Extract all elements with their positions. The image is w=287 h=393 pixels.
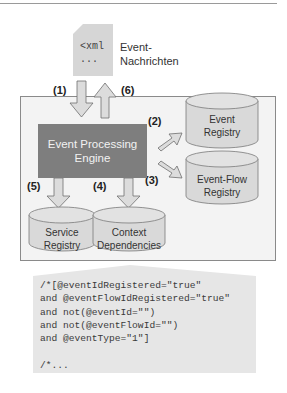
- event-registry-label-line2: Registry: [186, 127, 258, 139]
- service-registry: Service Registry: [29, 227, 95, 257]
- step-label-3: (3): [145, 174, 158, 186]
- code-line: /*...: [40, 359, 230, 372]
- step-label-2: (2): [148, 115, 161, 127]
- context-dependencies-label-line1: Context: [93, 227, 165, 239]
- event-registry-label-line1: Event: [186, 114, 258, 126]
- code-line: and not(@eventId=""): [40, 306, 230, 319]
- service-registry-label-line2: Registry: [29, 240, 95, 252]
- arrow-down-step5-icon: [47, 178, 70, 208]
- event-flow-registry: Event-Flow Registry: [186, 174, 258, 204]
- event-flow-registry-label-line2: Registry: [186, 187, 258, 199]
- step-label-5: (5): [27, 180, 40, 192]
- service-registry-label-line1: Service: [29, 227, 95, 239]
- arrow-down-step1-icon: [70, 81, 93, 117]
- code-line-blank: [40, 345, 230, 358]
- event-processing-engine: Event Processing Engine: [38, 124, 147, 178]
- event-flow-registry-label-line1: Event-Flow: [186, 174, 258, 186]
- arrow-up-step6-icon: [94, 83, 116, 118]
- arrow-step2-icon: [158, 133, 182, 151]
- context-dependencies-label-line2: Dependencies: [93, 240, 165, 252]
- step-label-6: (6): [121, 84, 134, 96]
- code-line: and @eventType="1"]: [40, 332, 230, 345]
- step-label-1: (1): [53, 84, 66, 96]
- context-dependencies: Context Dependencies: [93, 227, 165, 257]
- code-line: and not(@eventFlowId=""): [40, 319, 230, 332]
- event-registry: Event Registry: [186, 114, 258, 144]
- arrow-step3-icon: [158, 161, 182, 178]
- code-line: and @eventFlowIdRegistered="true": [40, 292, 230, 305]
- arrow-down-step4-icon: [117, 178, 140, 208]
- code-line: /*[@eventIdRegistered="true": [40, 279, 230, 292]
- xpath-filter-code: /*[@eventIdRegistered="true"and @eventFl…: [40, 279, 230, 372]
- engine-label-line2: Engine: [48, 151, 138, 165]
- step-label-4: (4): [93, 180, 106, 192]
- engine-label-line1: Event Processing: [48, 137, 138, 151]
